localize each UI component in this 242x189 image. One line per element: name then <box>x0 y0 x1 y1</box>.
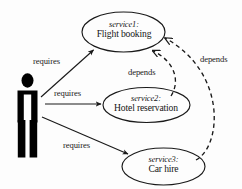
diagram-canvas <box>0 0 242 189</box>
edge-requires-2-label: requires <box>54 88 81 98</box>
actor-torso-icon <box>18 91 38 123</box>
node-service1-ellipse[interactable] <box>82 12 165 52</box>
user-actor <box>18 73 38 157</box>
edge-requires-3-label: requires <box>63 140 90 150</box>
actor-right-leg-icon <box>30 120 38 158</box>
actor-head-icon <box>22 73 34 87</box>
edge-depends-1-label: depends <box>128 67 155 77</box>
edge-depends-2-label: depends <box>200 54 227 64</box>
service-dependency-diagram: service1: Flight booking service2: Hotel… <box>0 0 242 189</box>
node-service2-ellipse[interactable] <box>103 88 190 123</box>
actor-left-leg-icon <box>18 120 26 158</box>
edge-requires-1-label: requires <box>33 56 60 66</box>
node-service3-ellipse[interactable] <box>122 148 205 185</box>
